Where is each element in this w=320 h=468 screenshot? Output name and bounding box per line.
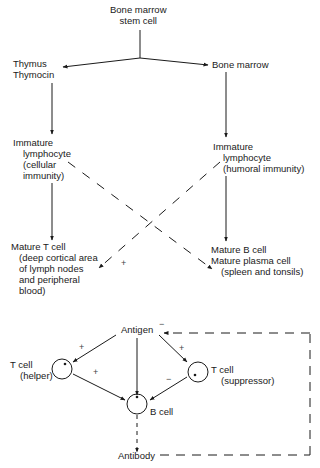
t-helper-cell-circle (52, 359, 72, 379)
t-suppressor-cell-circle (188, 362, 208, 382)
sign-plus-cross: + (121, 259, 126, 268)
sign-minus-feedback: − (159, 320, 164, 329)
dashed-arrow-humoral-to-t (99, 162, 220, 268)
label-immature-lymphocyte-humoral: Immature lymphocyte (humoral immunity) (213, 141, 304, 174)
label-antigen: Antigen (121, 324, 153, 335)
sign-helper-to-bcell: + (93, 368, 98, 377)
label-thymus: Thymus Thymocin (13, 58, 54, 80)
label-mature-b-cell: Mature B cell Mature plasma cell (spleen… (211, 244, 303, 277)
sign-antigen-to-suppressor: + (179, 344, 184, 353)
sign-suppressor-to-bcell: − (166, 375, 171, 384)
stem-cell-split-arrows (63, 30, 208, 67)
antigen-arrows (73, 335, 187, 400)
label-t-cell-helper: T cell (helper) (10, 359, 53, 381)
sign-antigen-to-helper: + (79, 343, 84, 352)
label-bone-marrow: Bone marrow (212, 59, 269, 70)
label-antibody: Antibody (118, 450, 155, 461)
label-immature-lymphocyte-cellular: Immature lymphocyte (cellular immunity) (13, 137, 71, 181)
label-t-cell-suppressor: T cell (suppressor) (211, 364, 274, 386)
label-mature-t-cell: Mature T cell (deep cortical area of lym… (11, 241, 98, 296)
label-b-cell: B cell (150, 406, 173, 417)
label-bone-marrow-stem-cell: Bone marrow stem cell (110, 4, 167, 26)
